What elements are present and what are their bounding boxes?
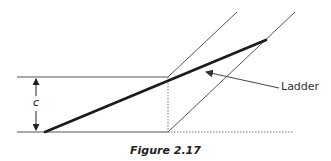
ladder-label: Ladder (281, 80, 319, 94)
dimension-label-c: c (29, 96, 43, 109)
figure-2-17: c Ladder Figure 2.17 (0, 0, 331, 161)
ladder-line (45, 40, 266, 132)
figure-caption: Figure 2.17 (0, 144, 331, 158)
